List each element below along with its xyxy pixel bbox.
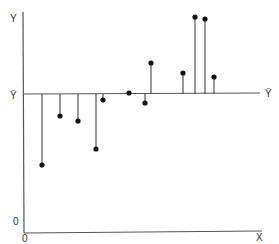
data-point — [211, 74, 216, 79]
data-point — [192, 14, 197, 19]
y-axis-label: Y — [10, 13, 17, 24]
x-origin-label: 0 — [22, 233, 28, 244]
mean-label-right: Ȳ — [265, 88, 272, 99]
data-point — [57, 113, 62, 118]
data-point — [148, 60, 153, 65]
data-points — [39, 14, 216, 167]
mean-label-left: Ȳ — [10, 90, 17, 101]
x-axis-label: X — [256, 232, 263, 243]
deviation-scatter-chart: Y Ȳ Ȳ 0 0 X — [0, 0, 279, 244]
data-point — [100, 97, 105, 102]
y-origin-label: 0 — [13, 216, 19, 227]
y-axis — [23, 12, 24, 233]
data-point — [93, 146, 98, 151]
data-point — [142, 100, 147, 105]
data-point — [39, 162, 44, 167]
data-point — [180, 70, 185, 75]
x-axis — [24, 231, 262, 233]
mean-line — [23, 93, 260, 94]
data-point — [126, 90, 131, 95]
data-point — [202, 16, 207, 21]
data-point — [75, 118, 80, 123]
